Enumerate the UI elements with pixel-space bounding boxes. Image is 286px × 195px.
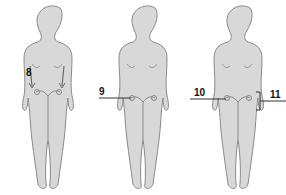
body-figure-2: 9	[95, 0, 191, 195]
label-9: 9	[99, 87, 105, 97]
label-11: 11	[270, 90, 281, 100]
body-figure-1: 8	[0, 0, 96, 195]
female-silhouette-icon	[0, 0, 96, 195]
female-silhouette-icon	[95, 0, 191, 195]
label-8: 8	[26, 68, 32, 78]
body-figure-3: 10 11	[190, 0, 286, 195]
label-10: 10	[194, 88, 205, 98]
